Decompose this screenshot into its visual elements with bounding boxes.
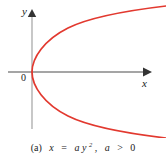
caption-equation-equals: = [61, 142, 67, 153]
caption-separator: , [95, 142, 98, 153]
origin-label: 0 [21, 73, 26, 83]
caption-index: (a) [31, 142, 42, 153]
plot-svg [0, 0, 166, 138]
caption-equation-coefficient: a [74, 142, 79, 153]
caption-condition-value: 0 [130, 142, 135, 153]
x-axis-arrowhead [143, 68, 152, 77]
caption-condition-variable: a [105, 142, 110, 153]
y-axis-arrowhead [28, 9, 36, 17]
parabola-figure: y x 0 (a) x = a y 2 , a > 0 [0, 0, 166, 165]
caption-equation-variable: y [82, 142, 86, 153]
parabola-upper-branch [32, 6, 166, 72]
caption-equation-lhs: x [49, 142, 53, 153]
figure-caption: (a) x = a y 2 , a > 0 [0, 141, 166, 153]
caption-condition-operator: > [117, 142, 123, 153]
y-axis-label: y [22, 6, 27, 17]
x-axis-label: x [142, 78, 147, 89]
plot-area: y x 0 [0, 0, 166, 138]
caption-equation-exponent: 2 [89, 141, 92, 148]
